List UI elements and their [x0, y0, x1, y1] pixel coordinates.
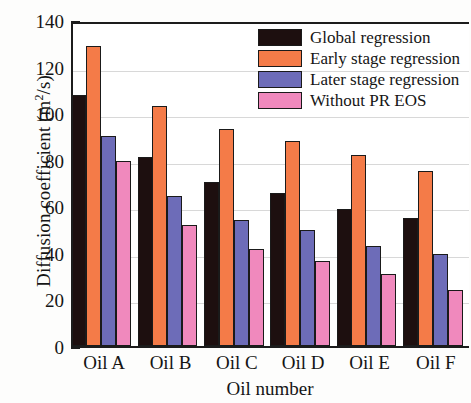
- y-axis-tick-label: 120: [24, 59, 64, 78]
- legend-label: Later stage regression: [310, 71, 459, 88]
- bar: [219, 129, 234, 346]
- bar: [381, 274, 396, 346]
- x-axis-tick-label: Oil D: [268, 352, 338, 374]
- x-axis-tick-label: Oil A: [69, 352, 139, 374]
- bar: [270, 193, 285, 346]
- y-axis-tick-label: 60: [24, 198, 64, 217]
- bar: [204, 182, 219, 346]
- legend-item: Global regression: [258, 27, 460, 47]
- bar-chart-figure: Diffusion coefficient (m2/s) 02040608010…: [0, 0, 471, 403]
- x-axis-tick-label: Oil F: [401, 352, 471, 374]
- x-axis-tick-label: Oil E: [335, 352, 405, 374]
- legend-item: Early stage regression: [258, 48, 460, 68]
- bar: [167, 196, 182, 346]
- legend-swatch: [258, 92, 302, 109]
- legend-label: Without PR EOS: [310, 92, 426, 109]
- y-axis-tick-label: 140: [24, 12, 64, 31]
- legend-label: Early stage regression: [310, 50, 460, 67]
- y-axis-tick-label: 20: [24, 291, 64, 310]
- bar: [86, 46, 101, 346]
- bar: [448, 290, 463, 346]
- bar-group: [139, 24, 205, 346]
- bar-group: [73, 24, 139, 346]
- bar: [71, 95, 86, 346]
- legend-swatch: [258, 50, 302, 67]
- bar: [418, 171, 433, 346]
- bar: [366, 246, 381, 346]
- bar: [433, 254, 448, 346]
- bar: [315, 261, 330, 346]
- bar: [337, 209, 352, 346]
- bar: [138, 157, 153, 346]
- y-axis-tick-labels: 020406080100120140: [18, 0, 64, 403]
- legend-item: Without PR EOS: [258, 90, 460, 110]
- bar: [300, 230, 315, 346]
- x-axis-tick-label: Oil B: [136, 352, 206, 374]
- x-axis-title: Oil number: [71, 378, 469, 400]
- legend-swatch: [258, 71, 302, 88]
- y-axis-tick-label: 0: [24, 338, 64, 357]
- bar: [116, 161, 131, 346]
- bar: [249, 249, 264, 346]
- bar: [234, 220, 249, 346]
- bar: [351, 155, 366, 346]
- legend-label: Global regression: [310, 29, 430, 46]
- chart-legend: Global regressionEarly stage regressionL…: [258, 27, 460, 111]
- bar: [403, 218, 418, 346]
- bar: [101, 136, 116, 346]
- y-axis-tick-label: 40: [24, 245, 64, 264]
- y-axis-tick-label: 100: [24, 105, 64, 124]
- bar: [152, 106, 167, 346]
- legend-swatch: [258, 29, 302, 46]
- y-axis-tick-label: 80: [24, 152, 64, 171]
- bar: [285, 141, 300, 346]
- bar: [182, 225, 197, 346]
- legend-item: Later stage regression: [258, 69, 460, 89]
- x-axis-tick-label: Oil C: [202, 352, 272, 374]
